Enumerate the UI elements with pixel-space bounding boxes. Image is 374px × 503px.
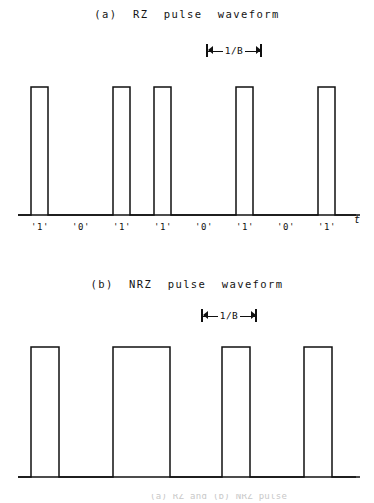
arrow-left-icon — [208, 46, 213, 54]
nrz-trace — [18, 347, 356, 477]
clipped-caption-strip: (a) RZ and (b) NRZ pulse — [0, 494, 374, 503]
bit-period-marker-rz: 1/B — [206, 43, 262, 59]
bit-period-marker-nrz: 1/B — [201, 308, 257, 324]
arrow-right-icon — [251, 311, 256, 319]
period-label-rz: 1/B — [223, 46, 245, 56]
waveform-plot-rz — [0, 62, 374, 222]
nrz-waveform-svg — [0, 330, 374, 492]
arrow-right-icon — [256, 46, 261, 54]
panel-title-nrz: (b) NRZ pulse waveform — [0, 278, 374, 290]
bit-label-rz-2: '1' — [107, 222, 137, 232]
bit-label-rz-3: '1' — [148, 222, 178, 232]
axis-label-t-rz: t — [354, 214, 360, 225]
bit-label-row-rz: '1' '0' '1' '1' '0' '1' '0' '1' — [0, 222, 374, 238]
panel-title-rz: (a) RZ pulse waveform — [0, 8, 374, 20]
rz-waveform-svg — [0, 62, 374, 222]
arrow-left-icon — [203, 311, 208, 319]
bit-label-rz-5: '1' — [230, 222, 260, 232]
bit-label-rz-7: '1' — [312, 222, 342, 232]
panel-nrz: (b) NRZ pulse waveform 1/B '1' '0' '1' — [0, 252, 374, 503]
clipped-caption-text: (a) RZ and (b) NRZ pulse — [150, 494, 287, 501]
bit-label-rz-6: '0' — [271, 222, 301, 232]
bit-label-rz-0: '1' — [25, 222, 55, 232]
waveform-plot-nrz — [0, 330, 374, 492]
pulse-waveform-figure: (a) RZ pulse waveform 1/B '1' '0' '1' — [0, 0, 374, 503]
bit-label-rz-1: '0' — [66, 222, 96, 232]
panel-rz: (a) RZ pulse waveform 1/B '1' '0' '1' — [0, 0, 374, 252]
rz-trace — [18, 87, 356, 215]
bit-label-rz-4: '0' — [189, 222, 219, 232]
period-label-nrz: 1/B — [218, 311, 240, 321]
